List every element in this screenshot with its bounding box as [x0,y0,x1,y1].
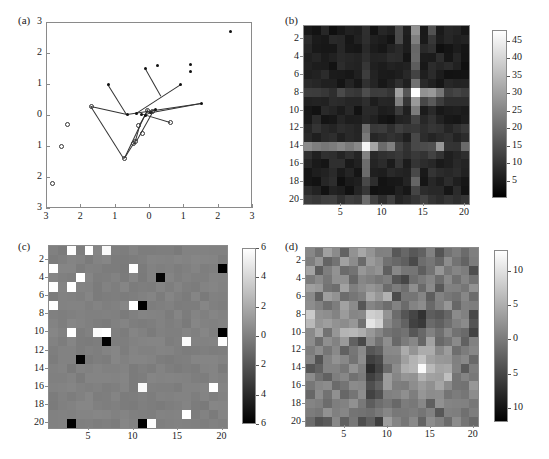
heatmap-cell [358,257,367,266]
heatmap-cell [218,337,227,346]
heatmap-cell [403,186,411,195]
heatmap-cell [191,401,200,410]
heatmap-cell [444,364,453,373]
heatmap-cell [306,266,315,275]
heatmap-cell [354,44,362,53]
heatmap-cell [329,195,337,204]
heatmap-cell [321,62,329,71]
heatmap-cell [156,246,165,255]
heatmap-cell [461,106,469,115]
heatmap-cell [461,373,470,382]
heatmap-cell [444,346,453,355]
heatmap-cell [469,275,478,284]
heatmap-cell [435,364,444,373]
heatmap-cell [306,346,315,355]
heatmap-cell [304,88,312,97]
panel-a-xticklabel: 2 [72,210,88,221]
panel-d-yticklabel: 6 [283,290,301,301]
heatmap-cell [209,292,218,301]
heatmap-cell [452,266,461,275]
heatmap-cell [111,383,120,392]
heatmap-cell [461,151,469,160]
heatmap-cell [444,275,453,284]
heatmap-cell [401,373,410,382]
heatmap-cell [329,151,337,160]
heatmap-cell [428,53,436,62]
heatmap-cell [401,284,410,293]
heatmap-cell [395,97,403,106]
panel-b-yticklabel: 8 [281,86,299,97]
heatmap-cell [329,97,337,106]
heatmap-cell [138,246,147,255]
heatmap-cell [85,364,94,373]
heatmap-cell [349,301,358,310]
panel-a-yticklabel: 3 [28,201,42,212]
heatmap-cell [93,355,102,364]
heatmap-cell [304,62,312,71]
panel-d-yticklabel: 18 [283,397,301,408]
heatmap-cell [102,392,111,401]
heatmap-cell [156,337,165,346]
panel-b-yticklabel: 4 [281,50,299,61]
heatmap-cell [392,355,401,364]
heatmap-cell [383,292,392,301]
heatmap-cell [435,408,444,417]
heatmap-cell [461,381,470,390]
heatmap-cell [200,337,209,346]
heatmap-cell [375,390,384,399]
heatmap-cell [156,273,165,282]
heatmap-cell [395,62,403,71]
heatmap-cell [306,248,315,257]
heatmap-cell [395,53,403,62]
heatmap-cell [418,275,427,284]
heatmap-cell [147,292,156,301]
panel-a-yticklabel: 2 [28,170,42,181]
heatmap-cell [411,53,419,62]
heatmap-cell [147,419,156,428]
heatmap-cell [370,106,378,115]
heatmap-cell [420,97,428,106]
heatmap-cell [362,159,370,168]
figure-root: (a) 32101233210123 (b) 51015202468101214… [0,0,549,459]
heatmap-cell [420,124,428,133]
heatmap-cell [411,79,419,88]
heatmap-cell [392,284,401,293]
heatmap-cell [191,364,200,373]
heatmap-cell [76,355,85,364]
heatmap-cell [349,390,358,399]
heatmap-cell [411,44,419,53]
heatmap-cell [375,355,384,364]
heatmap-cell [469,346,478,355]
heatmap-cell [67,264,76,273]
heatmap-cell [337,142,345,151]
heatmap-cell [312,133,320,142]
heatmap-cell [354,79,362,88]
heatmap-cell [426,337,435,346]
heatmap-cell [436,53,444,62]
heatmap-cell [392,337,401,346]
heatmap-cell [403,97,411,106]
heatmap-cell [420,35,428,44]
panel-b-xticklabel: 15 [414,206,432,217]
heatmap-cell [321,142,329,151]
heatmap-cell [156,373,165,382]
heatmap-cell [156,419,165,428]
heatmap-cell [312,53,320,62]
heatmap-cell [403,151,411,160]
heatmap-cell [392,319,401,328]
heatmap-cell [102,364,111,373]
heatmap-cell [174,401,183,410]
panel-d-yticklabel: 2 [283,254,301,265]
heatmap-cell [395,88,403,97]
heatmap-cell [395,151,403,160]
heatmap-cell [111,401,120,410]
heatmap-cell [58,273,67,282]
heatmap-cell [395,168,403,177]
heatmap-cell [426,390,435,399]
heatmap-cell [452,292,461,301]
heatmap-cell [426,381,435,390]
heatmap-cell [312,44,320,53]
heatmap-cell [401,292,410,301]
heatmap-cell [403,177,411,186]
heatmap-cell [49,364,58,373]
